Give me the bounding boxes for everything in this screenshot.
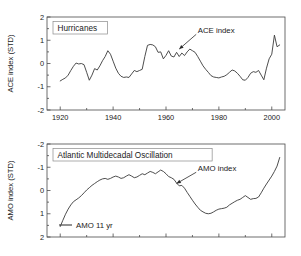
panel-title: Hurricanes [58,24,98,33]
y-axis-title: ACE index (STD) [6,34,15,93]
panel-bottom: -2-1012AMO index (STD)Atlantic Multideca… [6,140,285,242]
x-tick-label: 1960 [158,113,174,122]
series-line-amo-11-yr [60,157,279,226]
annotation-label: ACE index [198,26,235,35]
y-tick-label: -1 [37,82,44,91]
x-tick-label: 1940 [105,113,121,122]
y-tick-label: 0 [40,186,44,195]
x-tick-label: 2000 [264,113,280,122]
figure-container: 210-1-219201940196019802000ACE index (ST… [0,0,301,256]
panel-top: 210-1-219201940196019802000ACE index (ST… [6,13,285,122]
series-line-ace-index [60,35,279,81]
panel-title: Atlantic Multidecadal Oscillation [58,151,174,160]
climate-indices-figure: 210-1-219201940196019802000ACE index (ST… [0,0,301,256]
y-tick-label: -2 [37,140,44,149]
y-tick-label: -1 [37,163,44,172]
y-tick-label: 1 [40,36,44,45]
y-tick-label: 0 [40,59,44,68]
y-tick-label: 2 [40,13,44,22]
x-tick-label: 1920 [52,113,68,122]
y-axis-title: AMO index (STD) [6,160,15,220]
x-tick-label: 1980 [211,113,227,122]
y-tick-label: -2 [37,106,44,115]
y-tick-label: 2 [40,233,44,242]
y-tick-label: 1 [40,209,44,218]
legend-label: AMO 11 yr [76,221,113,230]
annotation-label: AMO index [198,164,237,173]
